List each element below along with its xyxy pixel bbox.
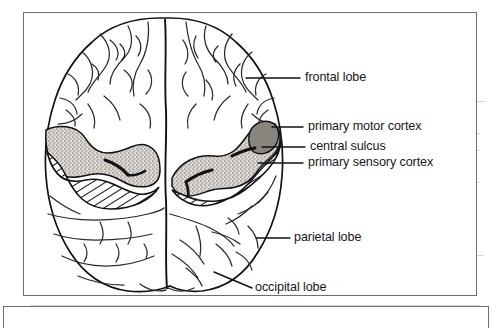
figure-frame <box>23 12 477 296</box>
secondary-figure-frame <box>3 306 489 328</box>
label-primary-sensory-cortex: primary sensory cortex <box>308 156 433 169</box>
label-primary-motor-cortex: primary motor cortex <box>308 120 421 133</box>
label-occipital-lobe: occipital lobe <box>255 281 326 294</box>
label-frontal-lobe: frontal lobe <box>305 71 366 84</box>
label-parietal-lobe: parietal lobe <box>294 231 361 244</box>
label-central-sulcus: central sulcus <box>310 140 386 153</box>
